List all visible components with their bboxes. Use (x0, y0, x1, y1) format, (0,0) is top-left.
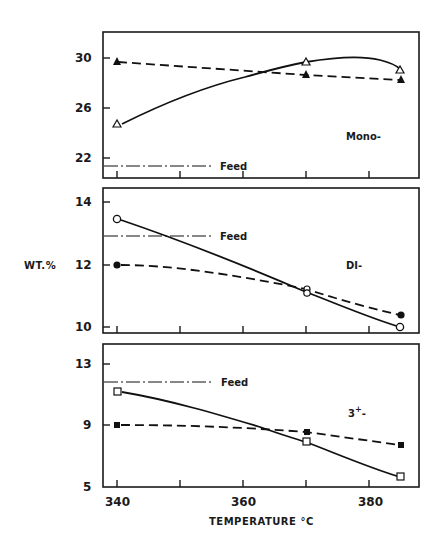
marker-open-circle (113, 215, 120, 222)
y-tick-label: 22 (75, 151, 92, 165)
y-tick-label: 30 (75, 51, 92, 65)
y-tick-label: 26 (75, 101, 92, 115)
series-mono-dashed (118, 62, 400, 80)
panel-di-frame (103, 188, 419, 333)
marker-filled-square (398, 442, 404, 448)
series-mono-solid (122, 57, 400, 124)
panel-label-di: DI- (346, 260, 362, 271)
y-tick-label: 10 (75, 320, 92, 334)
chart-figure: 30 26 22 Feed Mono- 14 12 10 (0, 0, 442, 550)
feed-label-three-plus: Feed (221, 377, 248, 388)
panel-three-plus: 13 9 5 Feed 3+- (75, 344, 419, 494)
marker-filled-square (304, 429, 310, 435)
marker-open-square (397, 473, 404, 480)
x-tick-label: 380 (358, 495, 383, 509)
y-tick-label: 12 (75, 258, 92, 272)
feed-label-di: Feed (220, 231, 247, 242)
panel-mono-frame (103, 32, 419, 178)
marker-filled-circle (397, 311, 404, 318)
y-axis-title: WT.% (24, 260, 56, 271)
x-axis-title: TEMPERATURE °C (209, 516, 314, 527)
marker-filled-triangle (397, 75, 405, 83)
marker-open-circle (396, 323, 403, 330)
y-tick-label: 9 (83, 418, 91, 432)
x-tick-label: 360 (231, 495, 256, 509)
y-tick-label: 14 (75, 195, 92, 209)
panel-label-three-plus: 3+- (348, 405, 366, 419)
marker-filled-triangle (113, 57, 121, 65)
marker-open-square (114, 388, 121, 395)
marker-filled-circle (113, 261, 120, 268)
y-tick-label: 13 (75, 357, 92, 371)
panel-label-mono: Mono- (346, 131, 381, 142)
y-tick-label: 5 (83, 480, 91, 494)
panel-three-plus-frame (103, 344, 419, 487)
panel-mono: 30 26 22 Feed Mono- (75, 32, 419, 178)
series-di-solid (121, 220, 400, 327)
marker-open-square (303, 438, 310, 445)
marker-open-circle (304, 290, 310, 296)
marker-open-triangle (113, 120, 121, 127)
marker-filled-square (114, 422, 120, 428)
x-tick-label: 340 (105, 495, 130, 509)
panel-di: 14 12 10 Feed DI- (75, 188, 419, 334)
feed-label-mono: Feed (220, 161, 247, 172)
